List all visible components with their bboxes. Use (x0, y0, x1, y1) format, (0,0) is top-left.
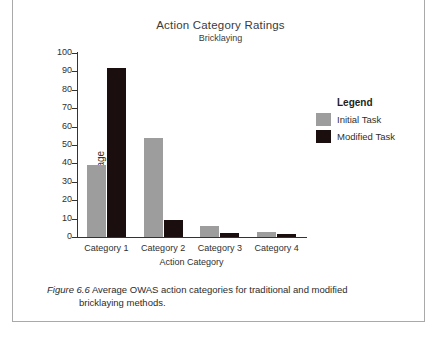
bar (164, 220, 183, 237)
x-tick-label: Category 4 (247, 243, 307, 253)
bar (107, 68, 126, 237)
bar (144, 138, 163, 237)
y-tick-mark (72, 200, 77, 201)
y-tick-label: 40 (26, 158, 72, 167)
figure-caption-line2: bricklaying methods. (47, 296, 407, 309)
plot-area: Percentage (78, 53, 305, 237)
bar (200, 226, 219, 237)
y-tick-mark (72, 71, 77, 72)
y-tick-label: 0 (26, 232, 72, 241)
figure-caption: Figure 6.6 Average OWAS action categorie… (47, 283, 407, 309)
legend-label: Initial Task (337, 114, 381, 125)
figure-caption-line1: Average OWAS action categories for tradi… (92, 284, 348, 295)
y-tick-label: 30 (26, 177, 72, 186)
y-tick-mark (72, 53, 77, 54)
y-tick-label: 60 (26, 122, 72, 131)
legend-title: Legend (337, 97, 426, 108)
legend-label: Modified Task (337, 131, 395, 142)
legend-items: Initial TaskModified Task (316, 113, 426, 143)
y-tick-mark (72, 182, 77, 183)
y-tick-mark (72, 237, 77, 238)
legend-item: Modified Task (316, 130, 426, 143)
legend-swatch (316, 113, 331, 126)
bar (277, 234, 296, 237)
y-tick-label: 80 (26, 85, 72, 94)
y-tick-mark (72, 90, 77, 91)
y-tick-label: 20 (26, 195, 72, 204)
y-tick-mark (72, 145, 77, 146)
y-tick-label: 90 (26, 66, 72, 75)
bar (220, 233, 239, 237)
legend-item: Initial Task (316, 113, 426, 126)
y-tick-mark (72, 163, 77, 164)
bar (87, 165, 106, 237)
bar (257, 232, 276, 237)
x-axis-title: Action Category (78, 257, 305, 267)
figure-frame-left-rule (12, 0, 13, 322)
y-tick-label: 70 (26, 103, 72, 112)
x-tick-label: Category 2 (133, 243, 193, 253)
figure-page: Action Category Ratings Bricklaying 1009… (0, 0, 441, 340)
y-tick-mark (72, 127, 77, 128)
figure-caption-label: Figure 6.6 (47, 284, 90, 295)
legend-swatch (316, 130, 331, 143)
y-tick-mark (72, 108, 77, 109)
x-axis-line (77, 237, 307, 238)
y-tick-label: 10 (26, 214, 72, 223)
y-tick-mark (72, 219, 77, 220)
y-tick-label: 100 (26, 48, 72, 57)
x-tick-label: Category 1 (76, 243, 136, 253)
legend: Legend Initial TaskModified Task (316, 97, 426, 147)
x-tick-label: Category 3 (190, 243, 250, 253)
y-tick-label: 50 (26, 140, 72, 149)
